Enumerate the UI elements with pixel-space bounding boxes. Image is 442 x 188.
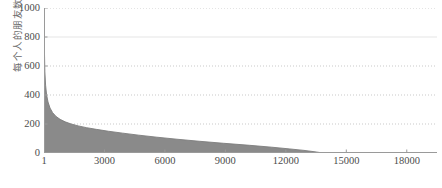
y-tick-label: 1000 [8,3,40,13]
x-tick-label: 12000 [273,155,299,166]
gridlines [44,8,437,124]
y-tick-label: 0 [8,148,40,158]
y-tick-label: 800 [8,32,40,42]
x-axis-tick-labels: 1300060009000120001500018000 [44,155,437,175]
chart-container: 每个人的朋友数 02004006008001000 13000600090001… [0,0,442,188]
y-axis-tick-labels: 02004006008001000 [6,0,40,188]
plot-area [44,8,437,153]
area-fill-path [44,10,322,153]
y-tick-label: 200 [8,119,40,129]
y-tick-label: 600 [8,61,40,71]
x-tick-label: 1 [41,155,46,166]
x-tick-label: 3000 [94,155,115,166]
chart-svg [44,8,437,153]
x-tick-label: 15000 [333,155,359,166]
x-tick-label: 18000 [394,155,420,166]
series-area-friend-count [44,10,322,153]
x-tick-label: 6000 [154,155,175,166]
y-tick-label: 400 [8,90,40,100]
x-tick-label: 9000 [215,155,236,166]
